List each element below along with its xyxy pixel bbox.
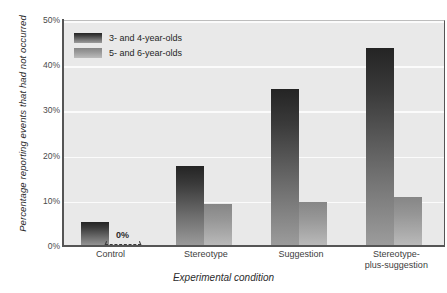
y-tick-label: 30% — [43, 105, 60, 115]
chart-legend: 3- and 4-year-olds 5- and 6-year-olds — [72, 29, 186, 63]
y-tick-label: 0% — [48, 241, 60, 251]
x-tick-label-line: Stereotype — [158, 249, 253, 260]
zero-annotation-label: 0% — [101, 230, 145, 240]
x-tick-label-line: Control — [63, 249, 158, 260]
x-tick-label: Stereotype — [158, 249, 253, 260]
x-tick-label: Control — [63, 249, 158, 260]
y-axis-line — [62, 19, 64, 247]
x-tick-label-line: Suggestion — [254, 249, 349, 260]
plot-area: 0% 3- and 4-year-olds 5- and 6-year-olds — [63, 20, 445, 247]
x-tick-label: Stereotype-plus-suggestion — [349, 249, 444, 271]
legend-swatch-series-2 — [74, 48, 102, 58]
y-axis-tick-labels: 0%10%20%30%40%50% — [30, 14, 60, 250]
gridline — [63, 21, 444, 23]
x-axis-title: Experimental condition — [0, 272, 447, 283]
x-axis-tick-labels: ControlStereotypeSuggestionStereotype-pl… — [63, 249, 444, 273]
legend-label-series-2: 5- and 6-year-olds — [109, 48, 182, 58]
y-axis-title: Percentage reporting events that had not… — [17, 8, 28, 240]
legend-item: 5- and 6-year-olds — [74, 46, 182, 59]
x-tick-label-line: Stereotype- — [349, 249, 444, 260]
y-tick-label: 40% — [43, 60, 60, 70]
bar — [176, 166, 204, 247]
bar-chart-figure: Percentage reporting events that had not… — [0, 0, 447, 293]
bar — [299, 202, 327, 247]
x-tick-label: Suggestion — [254, 249, 349, 260]
y-tick-label: 50% — [43, 15, 60, 25]
legend-item: 3- and 4-year-olds — [74, 31, 182, 44]
legend-label-series-1: 3- and 4-year-olds — [109, 33, 182, 43]
legend-swatch-series-1 — [74, 33, 102, 43]
x-axis-line — [62, 245, 445, 247]
bar — [366, 48, 394, 247]
y-tick-label: 20% — [43, 151, 60, 161]
bar — [394, 197, 422, 247]
bar — [204, 204, 232, 247]
bar — [271, 89, 299, 247]
x-tick-label-line: plus-suggestion — [349, 260, 444, 271]
y-tick-label: 10% — [43, 196, 60, 206]
